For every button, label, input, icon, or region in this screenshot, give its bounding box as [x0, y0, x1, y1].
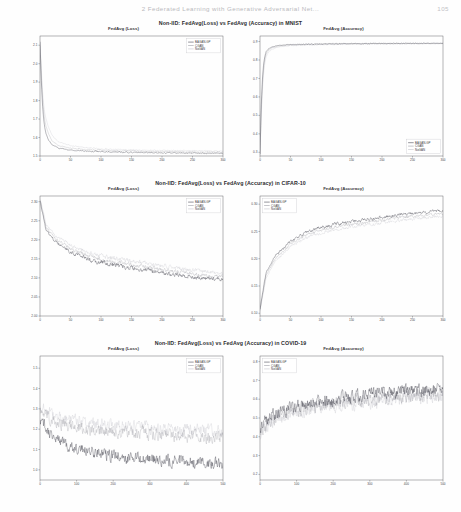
svg-text:0.4: 0.4: [253, 435, 258, 439]
svg-text:0.25: 0.25: [251, 230, 257, 234]
chart-canvas-accuracy-cifar10: 0501001502002503000.100.150.200.250.30BA…: [236, 186, 451, 332]
svg-text:400: 400: [184, 482, 189, 486]
chart-title: FedAvg (Loss): [16, 346, 231, 351]
svg-text:150: 150: [129, 158, 134, 162]
svg-text:300: 300: [440, 158, 445, 162]
chart-panel-accuracy-mnist: FedAvg (Accuracy) 0501001502002503000.30…: [236, 26, 451, 176]
svg-text:1.6: 1.6: [33, 136, 38, 140]
svg-text:2.20: 2.20: [31, 238, 37, 242]
svg-text:100: 100: [318, 158, 323, 162]
figure-cifar10: Non-IID: FedAvg(Loss) vs FedAvg (Accurac…: [0, 180, 461, 338]
series-line-nogan: [260, 216, 443, 312]
svg-text:150: 150: [129, 318, 134, 322]
svg-text:0.3: 0.3: [253, 150, 258, 154]
svg-text:0: 0: [259, 158, 261, 162]
chart-title: FedAvg (Accuracy): [236, 346, 451, 351]
svg-text:1.1: 1.1: [33, 448, 38, 452]
running-header: 2 Federated Learning with Generative Adv…: [0, 0, 461, 12]
svg-text:1.4: 1.4: [33, 387, 38, 391]
series-line-cgan: [40, 202, 223, 278]
series-line-cgan: [260, 213, 443, 310]
svg-text:50: 50: [69, 158, 73, 162]
series-line-nogan: [40, 43, 223, 152]
svg-text:0.6: 0.6: [253, 95, 258, 99]
svg-text:150: 150: [349, 318, 354, 322]
chart-panel-accuracy-cifar10: FedAvg (Accuracy) 0501001502002503000.10…: [236, 186, 451, 336]
svg-text:50: 50: [289, 158, 293, 162]
svg-text:250: 250: [410, 318, 415, 322]
svg-text:0.6: 0.6: [253, 397, 258, 401]
chart-canvas-accuracy-covid19: 01002003004005000.20.30.40.50.60.70.8BAG…: [236, 346, 451, 496]
svg-text:1.2: 1.2: [33, 427, 38, 431]
series-line-bagan-gp: [260, 383, 443, 432]
svg-text:0: 0: [39, 482, 41, 486]
series-line-nogan: [40, 404, 223, 438]
svg-text:1.9: 1.9: [33, 80, 38, 84]
svg-text:250: 250: [190, 318, 195, 322]
page-number: 105: [437, 5, 449, 12]
svg-text:0.2: 0.2: [253, 472, 258, 476]
svg-text:0.10: 0.10: [251, 311, 257, 315]
svg-text:0.15: 0.15: [251, 284, 257, 288]
svg-text:1.8: 1.8: [33, 99, 38, 103]
legend-label: NoGAN: [415, 148, 425, 152]
svg-text:2.05: 2.05: [31, 295, 37, 299]
svg-text:100: 100: [98, 318, 103, 322]
svg-text:150: 150: [349, 158, 354, 162]
svg-text:250: 250: [410, 158, 415, 162]
svg-text:0.8: 0.8: [253, 58, 258, 62]
chart-canvas-loss-mnist: 0501001502002503001.51.61.71.81.92.02.1B…: [16, 26, 231, 172]
legend-label: NoGAN: [271, 207, 281, 211]
chart-panel-loss-cifar10: FedAvg (Loss) 0501001502002503002.002.05…: [16, 186, 231, 336]
chart-canvas-accuracy-mnist: 0501001502002503000.30.40.50.60.70.80.9B…: [236, 26, 451, 172]
chart-title: FedAvg (Loss): [16, 186, 231, 191]
svg-text:200: 200: [379, 158, 384, 162]
chart-title: FedAvg (Accuracy): [236, 26, 451, 31]
svg-text:250: 250: [190, 158, 195, 162]
svg-text:0.7: 0.7: [253, 379, 258, 383]
chart-panel-loss-mnist: FedAvg (Loss) 0501001502002503001.51.61.…: [16, 26, 231, 176]
figure-panel-row: FedAvg (Loss) 01002003004005001.01.11.21…: [0, 346, 461, 506]
legend-label: NoGAN: [195, 367, 205, 371]
svg-text:2.10: 2.10: [31, 276, 37, 280]
svg-text:0: 0: [39, 158, 41, 162]
svg-text:300: 300: [147, 482, 152, 486]
svg-text:0.3: 0.3: [253, 454, 258, 458]
svg-text:100: 100: [318, 318, 323, 322]
svg-text:100: 100: [74, 482, 79, 486]
svg-text:50: 50: [289, 318, 293, 322]
legend-label: NoGAN: [195, 47, 205, 51]
svg-text:300: 300: [440, 318, 445, 322]
chart-title: FedAvg (Accuracy): [236, 186, 451, 191]
svg-text:1.7: 1.7: [33, 117, 38, 121]
svg-text:1.5: 1.5: [33, 154, 38, 158]
svg-text:0.9: 0.9: [253, 40, 258, 44]
figure-panel-row: FedAvg (Loss) 0501001502002503001.51.61.…: [0, 26, 461, 178]
svg-text:500: 500: [220, 482, 225, 486]
series-line-bagan-gp: [260, 43, 443, 154]
svg-text:2.0: 2.0: [33, 62, 38, 66]
svg-text:1.5: 1.5: [33, 366, 38, 370]
legend-label: NoGAN: [271, 367, 281, 371]
svg-text:0: 0: [259, 482, 261, 486]
chart-panel-loss-covid19: FedAvg (Loss) 01002003004005001.01.11.21…: [16, 346, 231, 502]
svg-text:200: 200: [331, 482, 336, 486]
chart-title: FedAvg (Loss): [16, 26, 231, 31]
svg-text:0.7: 0.7: [253, 77, 258, 81]
svg-text:0.30: 0.30: [251, 202, 257, 206]
chart-canvas-loss-cifar10: 0501001502002503002.002.052.102.152.202.…: [16, 186, 231, 332]
svg-text:200: 200: [379, 318, 384, 322]
svg-text:1.3: 1.3: [33, 407, 38, 411]
svg-text:0: 0: [39, 318, 41, 322]
svg-text:2.1: 2.1: [33, 43, 38, 47]
svg-text:1.0: 1.0: [33, 468, 38, 472]
series-line-cgan: [260, 43, 443, 154]
figure-covid19: Non-IID: FedAvg(Loss) vs FedAvg (Accurac…: [0, 340, 461, 506]
figure-page: 2 Federated Learning with Generative Adv…: [0, 0, 461, 512]
series-line-bagan-gp: [40, 42, 223, 154]
legend-label: NoGAN: [195, 207, 205, 211]
svg-text:300: 300: [220, 318, 225, 322]
svg-text:0.5: 0.5: [253, 113, 258, 117]
svg-text:0.20: 0.20: [251, 257, 257, 261]
svg-text:2.15: 2.15: [31, 257, 37, 261]
